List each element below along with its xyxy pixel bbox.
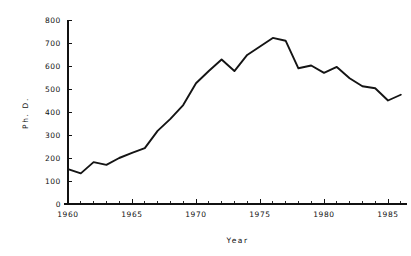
x-tick-label: 1970 [185, 210, 207, 219]
y-tick-label: 100 [45, 177, 61, 186]
y-tick-label: 300 [45, 131, 61, 140]
x-tick-label: 1965 [121, 210, 143, 219]
axis-lines [64, 20, 407, 204]
x-tick-label: 1980 [313, 210, 335, 219]
y-axis-tick-labels: 0100200300400500600700800 [45, 16, 61, 209]
y-tick-label: 400 [45, 108, 61, 117]
chart-container: 0100200300400500600700800 19601965197019… [0, 0, 411, 256]
x-axis-ticks [68, 199, 401, 204]
y-tick-label: 700 [45, 39, 61, 48]
x-tick-label: 1975 [249, 210, 271, 219]
y-tick-label: 500 [45, 85, 61, 94]
x-axis-title: Year [225, 236, 248, 245]
y-tick-label: 200 [45, 154, 61, 163]
x-axis-tick-labels: 196019651970197519801985 [57, 210, 399, 219]
y-tick-label: 600 [45, 62, 61, 71]
y-axis-ticks [68, 20, 72, 204]
data-series-line [68, 38, 401, 173]
y-tick-label: 0 [56, 200, 61, 209]
y-tick-label: 800 [45, 16, 61, 25]
y-axis-title: Ph. D. [21, 97, 30, 129]
line-chart: 0100200300400500600700800 19601965197019… [0, 0, 411, 256]
x-tick-label: 1985 [377, 210, 399, 219]
x-tick-label: 1960 [57, 210, 79, 219]
